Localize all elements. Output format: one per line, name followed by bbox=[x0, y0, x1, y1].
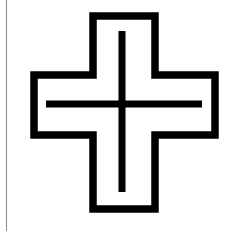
cross-figure bbox=[0, 0, 231, 234]
image-canvas bbox=[0, 0, 231, 234]
